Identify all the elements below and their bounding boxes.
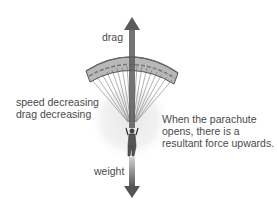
speed-drag-note: speed decreasing drag decreasing (16, 96, 99, 120)
note-line: opens, there is a (162, 125, 274, 137)
note-line: drag decreasing (16, 108, 99, 120)
drag-label: drag (102, 31, 123, 43)
note-line: When the parachute (162, 113, 274, 125)
weight-arrow-icon (124, 157, 140, 198)
note-line: speed decreasing (16, 96, 99, 108)
note-line: resultant force upwards. (162, 137, 274, 149)
weight-label: weight (94, 165, 124, 177)
parachute-force-diagram: drag weight speed decreasing drag decrea… (0, 0, 277, 217)
resultant-force-note: When the parachute opens, there is a res… (162, 113, 274, 149)
